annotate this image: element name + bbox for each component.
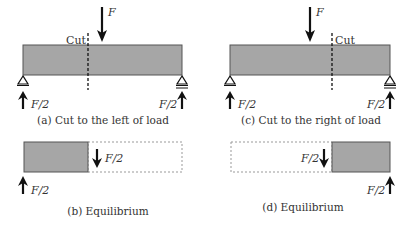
reaction-arrow-right-icon [385, 91, 395, 109]
shear-label: F/2 [300, 152, 319, 165]
pin-support-icon [225, 76, 235, 84]
panel-a: Cut F F/2 F/2 (a) Cut to the left of loa… [17, 6, 188, 126]
reaction-arrow-icon [18, 176, 28, 194]
roller-support-icon [385, 76, 395, 84]
beam [23, 45, 182, 75]
removed-segment [88, 142, 182, 172]
load-label: F [315, 6, 324, 19]
panel-b: F/2 F/2 (b) Equilibrium [18, 142, 182, 217]
pin-support-icon [18, 76, 28, 84]
shear-arrow-icon [319, 149, 329, 168]
caption-c: (c) Cut to the right of load [241, 114, 381, 126]
roller-support-icon [177, 76, 187, 84]
reaction-right-label: F/2 [366, 98, 385, 111]
reaction-label: F/2 [30, 184, 49, 197]
reaction-right-label: F/2 [158, 98, 177, 111]
cut-label: Cut [66, 34, 87, 47]
shear-arrow-icon [92, 149, 102, 168]
cut-label: Cut [335, 34, 356, 47]
caption-b: (b) Equilibrium [67, 205, 148, 217]
free-body-segment [332, 142, 390, 172]
load-arrow-icon [305, 7, 315, 42]
caption-a: (a) Cut to the left of load [37, 114, 169, 126]
reaction-left-label: F/2 [237, 98, 256, 111]
reaction-label: F/2 [366, 184, 385, 197]
panel-c: Cut F F/2 F/2 (c) Cut to the right of lo… [224, 6, 396, 126]
reaction-arrow-left-icon [225, 91, 235, 109]
load-arrow-icon [97, 7, 107, 42]
reaction-left-label: F/2 [30, 98, 49, 111]
beam-cut-diagram: Cut F F/2 F/2 (a) Cut to the left of loa… [0, 0, 414, 229]
load-label: F [107, 6, 116, 19]
beam [230, 45, 390, 75]
reaction-arrow-icon [385, 176, 395, 194]
panel-d: F/2 F/2 (d) Equilibrium [231, 142, 395, 213]
reaction-arrow-left-icon [18, 91, 28, 109]
free-body-segment [24, 142, 88, 172]
shear-label: F/2 [104, 152, 123, 165]
caption-d: (d) Equilibrium [262, 201, 343, 213]
reaction-arrow-right-icon [177, 91, 187, 109]
